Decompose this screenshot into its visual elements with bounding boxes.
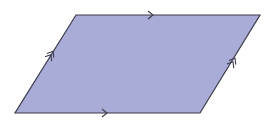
diagram-canvas: Parallelogram: [0, 0, 268, 123]
parallelogram-diagram: [0, 0, 268, 123]
parallelogram-shape: [15, 15, 260, 113]
